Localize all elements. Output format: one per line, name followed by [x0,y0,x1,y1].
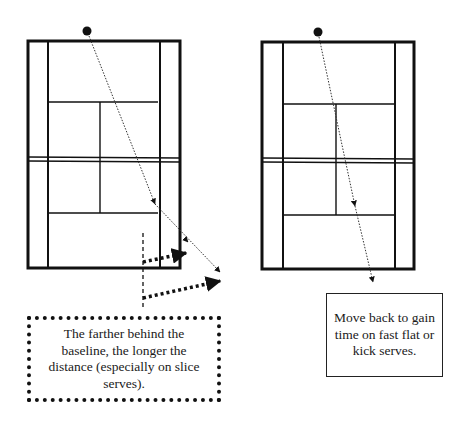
left-note-text: The farther behind the baseline, the lon… [39,326,209,392]
right-court [262,42,414,269]
right-returner-path [355,206,373,282]
returner-path-far [143,281,220,298]
left-ball-continuation [155,204,220,272]
right-server-ball [314,28,323,37]
right-serve-path [319,37,355,206]
left-note-box: The farther behind the baseline, the lon… [27,316,221,402]
right-note-text: Move back to gain time on fast flat or k… [333,310,436,360]
left-ball-mid-arrow [160,212,188,242]
right-note-box: Move back to gain time on fast flat or k… [326,293,443,377]
left-serve-path [89,36,155,204]
left-court [28,41,180,268]
left-server-ball [83,27,92,36]
